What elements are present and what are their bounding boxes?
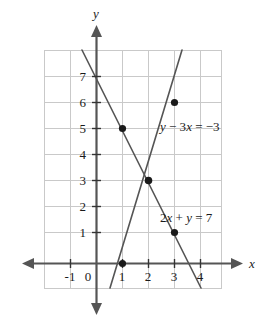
point-2-3 <box>145 177 153 185</box>
equation-label-line-two: 2x + y = 7 <box>160 210 213 225</box>
eq1-minus3: − 3 <box>166 119 186 134</box>
y-tick-label: 4 <box>80 147 87 162</box>
x-axis-arrow-right <box>231 258 243 269</box>
x-axis-label: x <box>248 256 255 271</box>
coordinate-plane: 7 6 5 4 3 2 1 -1 0 1 2 3 4 y x <box>0 0 268 325</box>
y-tick-label: 2 <box>80 199 87 214</box>
x-axis-arrow-left <box>22 258 34 269</box>
y-tick-labels: 7 6 5 4 3 2 1 <box>80 69 87 240</box>
line-2x-plus-y <box>82 50 201 288</box>
point-1-0 <box>119 260 126 267</box>
eq2-tail: = 7 <box>192 210 213 225</box>
point-3-6 <box>171 99 178 106</box>
point-3-1 <box>171 229 178 236</box>
x-tick-label: -1 <box>65 269 76 284</box>
y-axis-arrow-down <box>91 303 102 315</box>
x-axis <box>22 258 243 269</box>
line-y-minus-3x <box>110 50 182 288</box>
grid-vertical-lines <box>45 50 222 288</box>
x-tick-label: 3 <box>171 269 178 284</box>
y-tick-label: 6 <box>80 95 87 110</box>
x-tick-label: 4 <box>197 269 204 284</box>
x-tick-label: 1 <box>119 269 126 284</box>
point-1-5 <box>119 125 126 132</box>
y-axis <box>91 25 102 315</box>
y-axis-arrow-up <box>91 25 102 37</box>
y-tick-label: 7 <box>80 69 87 84</box>
eq2-plus: + <box>172 210 186 225</box>
y-tick-label: 1 <box>80 225 87 240</box>
eq1-tail: = −3 <box>192 119 220 134</box>
graph-figure: 7 6 5 4 3 2 1 -1 0 1 2 3 4 y x <box>0 0 268 325</box>
equation-label-line-one: y − 3x = −3 <box>158 119 220 134</box>
x-tick-label: 2 <box>145 269 152 284</box>
x-tick-label-origin: 0 <box>85 269 92 284</box>
y-axis-label: y <box>91 6 99 21</box>
y-tick-label: 3 <box>80 173 87 188</box>
x-tick-labels: -1 0 1 2 3 4 <box>65 269 204 284</box>
y-tick-label: 5 <box>80 121 87 136</box>
